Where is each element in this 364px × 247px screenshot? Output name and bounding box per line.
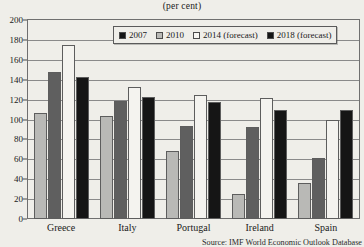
chart-figure: (per cent) 020406080100120140160180200 G… [0, 0, 364, 247]
y-axis-tick-label: 20 [14, 194, 23, 204]
y-axis-tick-label: 180 [10, 35, 24, 45]
source-note: Source: IMF World Economic Outlook Datab… [202, 238, 362, 247]
bar [298, 183, 311, 219]
legend-label: 2007 [129, 30, 147, 40]
bar [34, 113, 47, 219]
bar-group [293, 20, 359, 219]
bar [260, 98, 273, 219]
legend-item[interactable]: 2007 [119, 30, 147, 40]
y-axis-tick-label: 40 [14, 174, 23, 184]
legend-swatch-icon [267, 32, 274, 39]
y-axis-tick-label: 120 [10, 95, 24, 105]
legend-item[interactable]: 2010 [156, 30, 184, 40]
x-axis-label: Italy [118, 222, 136, 233]
y-axis-tick-label: 100 [10, 115, 24, 125]
bar [100, 116, 113, 219]
bar [312, 158, 325, 219]
y-axis-tick-label: 200 [10, 15, 24, 25]
bar [232, 194, 245, 219]
bar [166, 151, 179, 219]
bar [114, 101, 127, 219]
bar [340, 110, 353, 219]
bar [326, 120, 339, 220]
legend-label: 2018 (forecast) [277, 30, 332, 40]
bar-group [227, 20, 293, 219]
bars-layer [28, 20, 359, 219]
x-axis-label: Portugal [177, 222, 211, 233]
legend-label: 2014 (forecast) [203, 30, 258, 40]
bar-group [94, 20, 160, 219]
x-axis-labels: GreeceItalyPortugalIrelandSpain [28, 222, 359, 238]
legend-item[interactable]: 2018 (forecast) [267, 30, 332, 40]
bar [246, 127, 259, 219]
y-axis: 020406080100120140160180200 [0, 19, 27, 220]
y-axis-tick-label: 60 [14, 154, 23, 164]
bar [128, 87, 141, 219]
y-axis-tick-label: 80 [14, 134, 23, 144]
bar [62, 45, 75, 219]
bar [48, 72, 61, 219]
chart-title: (per cent) [0, 1, 364, 11]
legend-swatch-icon [119, 32, 126, 39]
legend-swatch-icon [156, 32, 163, 39]
bar [142, 97, 155, 219]
x-axis-label: Greece [47, 222, 75, 233]
bar-group [28, 20, 94, 219]
bar [274, 110, 287, 219]
legend-label: 2010 [166, 30, 184, 40]
bar [208, 102, 221, 219]
chart-legend: 200720102014 (forecast)2018 (forecast) [113, 26, 337, 44]
x-axis-label: Spain [315, 222, 338, 233]
legend-item[interactable]: 2014 (forecast) [193, 30, 258, 40]
y-axis-tick-label: 140 [10, 75, 24, 85]
x-axis-label: Ireland [246, 222, 274, 233]
bar [194, 95, 207, 219]
y-axis-tick-label: 160 [10, 55, 24, 65]
legend-swatch-icon [193, 32, 200, 39]
bar [76, 77, 89, 219]
bar [180, 126, 193, 219]
bar-group [160, 20, 226, 219]
